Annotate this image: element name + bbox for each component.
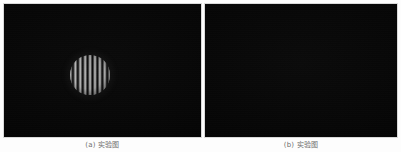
- figure-root: (a) 实验图 (b) 实验图: [0, 0, 401, 152]
- panel-b-background: [205, 4, 397, 137]
- caption-panel-b: (b) 实验图: [204, 141, 398, 150]
- image-panel-b: [204, 3, 398, 138]
- caption-panel-a: (a) 实验图: [3, 141, 202, 150]
- panel-a-aperture-vignette: [70, 55, 110, 95]
- panel-a-fringe-disc: [70, 55, 110, 95]
- image-panel-a: [3, 3, 202, 138]
